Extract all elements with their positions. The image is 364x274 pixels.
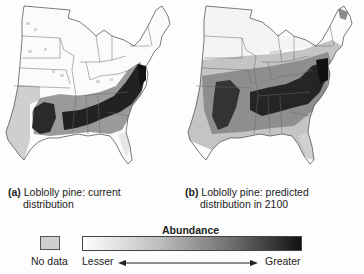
caption-b-line1: Loblolly pine: predicted [201,186,308,198]
no-data-swatch [40,236,60,250]
caption-b-line2: distribution in 2100 [185,198,309,210]
map-predicted-distribution-2100 [182,0,364,178]
caption-panel-a: (a) Loblolly pine: current distribution [8,186,121,210]
panel-label-a: (a) [8,186,21,198]
map-current-distribution [0,0,182,178]
abundance-gradient-bar [82,236,302,251]
double-arrow-icon [118,260,258,266]
panel-label-b: (b) [185,186,198,198]
scale-max-label: Greater [265,255,301,267]
caption-a-line1: Loblolly pine: current [24,186,121,198]
legend-title: Abundance [162,224,219,236]
caption-panel-b: (b) Loblolly pine: predicted distributio… [185,186,309,210]
scale-min-label: Lesser [82,255,114,267]
no-data-label: No data [31,255,68,267]
caption-a-line2: distribution [8,198,121,210]
